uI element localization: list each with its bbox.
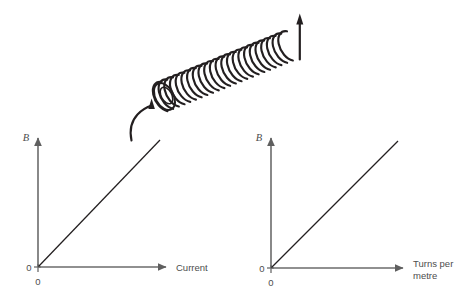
y-axis-label: B (23, 132, 30, 143)
figure-root: B Current 0 0 B Turns per metre 0 0 (0, 0, 472, 304)
current-in-arrow-icon (148, 99, 155, 110)
y-axis-label: B (256, 132, 263, 143)
current-out-arrow-icon (296, 14, 303, 25)
data-line-b-vs-current (39, 140, 161, 267)
y-origin-label: 0 (26, 262, 31, 273)
solenoid-turns (148, 30, 301, 114)
x-origin-label: 0 (268, 277, 273, 288)
x-axis-label: Current (176, 262, 208, 273)
x-axis-label-line2: metre (413, 270, 437, 281)
x-axis-label-line1: Turns per (413, 258, 453, 269)
y-origin-label: 0 (259, 263, 264, 274)
figure-canvas: B Current 0 0 B Turns per metre 0 0 (0, 0, 472, 304)
chart-b-vs-turns: B Turns per metre 0 0 (256, 132, 454, 288)
solenoid-coil (131, 14, 304, 141)
current-in-lead (131, 99, 155, 141)
data-line-b-vs-turns (272, 141, 399, 268)
x-origin-label: 0 (35, 276, 40, 287)
chart-b-vs-current: B Current 0 0 (23, 132, 208, 287)
current-out-lead (296, 14, 303, 60)
